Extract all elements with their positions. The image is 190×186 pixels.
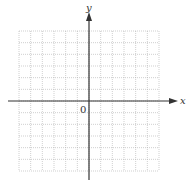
x-axis-arrow-icon <box>169 98 178 104</box>
x-axis-label: x <box>180 95 186 106</box>
origin-label: 0 <box>80 104 86 115</box>
y-axis-label: y <box>85 2 92 13</box>
y-axis-arrow-icon <box>86 12 92 21</box>
coordinate-plane: x y 0 <box>0 0 190 186</box>
